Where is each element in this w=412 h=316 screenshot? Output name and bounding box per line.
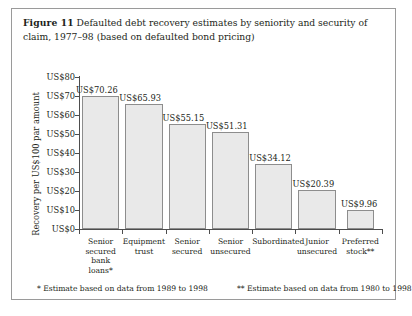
x-axis-tick-mark: [122, 230, 123, 234]
bar-value-label: US$9.96: [341, 199, 377, 209]
bar: [255, 164, 292, 229]
x-axis-category-label: Equipmenttrust: [122, 237, 165, 256]
y-axis-tick-mark: [75, 210, 79, 211]
x-axis-tick-mark: [252, 230, 253, 234]
bar: [212, 132, 249, 229]
x-axis-category-line: Subordinated: [252, 237, 295, 247]
y-axis-tick-label: US$40: [46, 148, 75, 158]
footnote-double-asterisk: ** Estimate based on data from 1980 to 1…: [237, 284, 412, 293]
bar: [347, 210, 374, 229]
y-axis-tick-mark: [75, 77, 79, 78]
bar-value-label: US$51.31: [206, 121, 248, 131]
x-axis-category-line: Senior: [209, 237, 252, 247]
bar: [298, 190, 335, 229]
bar-chart: Recovery per US$100 par amount US$0US$10…: [12, 9, 397, 301]
x-axis-category-line: trust: [122, 247, 165, 257]
y-axis-tick-mark: [75, 153, 79, 154]
y-axis-tick-label: US$50: [46, 129, 75, 139]
bar-value-label: US$34.12: [249, 153, 291, 163]
x-axis-category-line: loans*: [79, 266, 122, 276]
x-axis-category-line: stock**: [339, 247, 382, 257]
x-axis-category-label: Subordinated: [252, 237, 295, 247]
y-axis-tick-label: US$80: [46, 72, 75, 82]
x-axis-tick-mark: [295, 230, 296, 234]
y-axis-tick-mark: [75, 191, 79, 192]
y-axis-tick-mark: [75, 115, 79, 116]
x-axis-category-line: Equipment: [122, 237, 165, 247]
x-axis-tick-mark: [166, 230, 167, 234]
y-axis-tick-label: US$70: [46, 91, 75, 101]
x-axis-category-label: Seniorunsecured: [209, 237, 252, 256]
y-axis-tick-label: US$60: [46, 110, 75, 120]
x-axis-category-line: unsecured: [209, 247, 252, 257]
figure-frame: Figure 11 Defaulted debt recovery estima…: [11, 8, 396, 300]
x-axis-category-line: Senior: [79, 237, 122, 247]
x-axis-tick-mark: [382, 230, 383, 234]
y-axis-tick-label: US$0: [52, 224, 75, 234]
y-axis-tick-label: US$20: [46, 186, 75, 196]
x-axis-line: [79, 229, 383, 230]
x-axis-category-line: bank: [79, 256, 122, 266]
x-axis-category-line: unsecured: [295, 247, 338, 257]
y-axis-tick-mark: [75, 134, 79, 135]
bar: [125, 104, 162, 229]
x-axis-tick-mark: [79, 230, 80, 234]
x-axis-category-label: Seniorsecuredbankloans*: [79, 237, 122, 275]
x-axis-category-label: Seniorsecured: [166, 237, 209, 256]
x-axis-category-label: Preferredstock**: [339, 237, 382, 256]
x-axis-category-line: Senior: [166, 237, 209, 247]
bar: [82, 96, 119, 229]
x-axis-category-line: Junior: [295, 237, 338, 247]
x-axis-category-line: secured: [166, 247, 209, 257]
bar-value-label: US$65.93: [119, 93, 161, 103]
y-axis-title: Recovery per US$100 par amount: [31, 89, 41, 239]
x-axis-tick-mark: [339, 230, 340, 234]
x-axis-category-label: Juniorunsecured: [295, 237, 338, 256]
y-axis-tick-mark: [75, 96, 79, 97]
x-axis-category-line: secured: [79, 247, 122, 257]
bar: [169, 124, 206, 229]
y-axis-tick-label: US$30: [46, 167, 75, 177]
x-axis-tick-mark: [209, 230, 210, 234]
bar-value-label: US$20.39: [292, 179, 334, 189]
x-axis-category-line: Preferred: [339, 237, 382, 247]
bar-value-label: US$70.26: [76, 85, 118, 95]
bar-value-label: US$55.15: [163, 113, 205, 123]
footnote-single-asterisk: * Estimate based on data from 1989 to 19…: [37, 284, 208, 293]
y-axis-tick-mark: [75, 172, 79, 173]
y-axis-tick-label: US$10: [46, 205, 75, 215]
